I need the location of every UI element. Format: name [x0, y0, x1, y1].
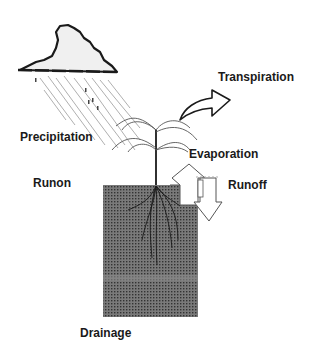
- label-runon: Runon: [33, 176, 71, 190]
- transpiration-arrow-icon: [180, 90, 230, 120]
- label-transpiration: Transpiration: [218, 70, 294, 84]
- label-precipitation: Precipitation: [20, 130, 93, 144]
- label-drainage: Drainage: [80, 326, 131, 340]
- cloud-icon: [18, 25, 118, 72]
- label-evaporation: Evaporation: [189, 147, 258, 161]
- label-runoff: Runoff: [228, 178, 267, 192]
